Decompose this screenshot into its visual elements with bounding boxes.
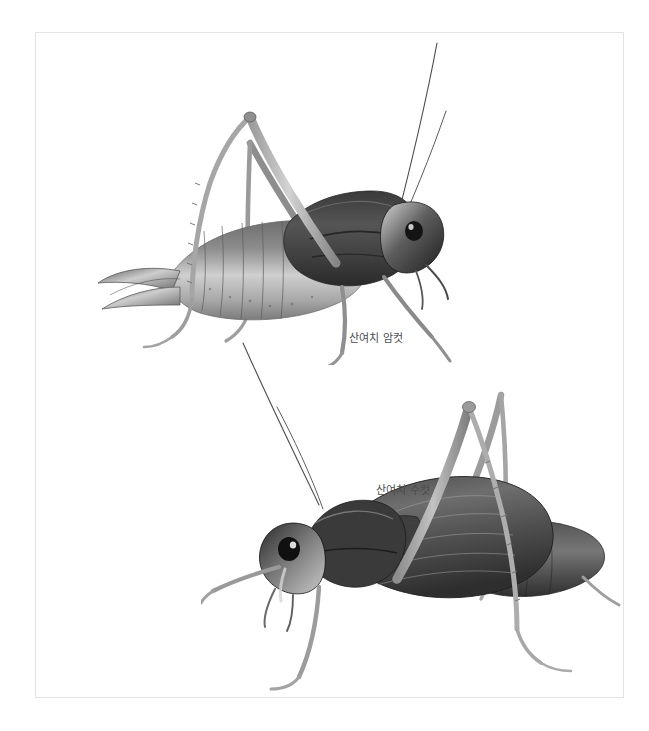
male-antenna-1 (243, 343, 319, 505)
female-hindleg-claw (144, 337, 172, 347)
female-palp-2 (416, 271, 423, 309)
specimen-male (201, 333, 623, 693)
female-katydid-illustration (54, 33, 474, 365)
plate-inner: 산여치 암컷 (36, 33, 623, 697)
male-foreleg-tarsus (201, 591, 213, 603)
male-eye (278, 537, 300, 561)
page-root: 산여치 암컷 (0, 0, 649, 731)
male-hindleg-claw (541, 663, 571, 671)
male-palp-1 (264, 589, 275, 627)
specimen-female (54, 33, 474, 365)
caption-male: 산여치 수컷 (376, 485, 431, 497)
male-hindleg-knee (463, 402, 476, 413)
male-hindleg-tarsus (517, 629, 541, 663)
male-katydid-illustration (201, 333, 623, 693)
female-foreleg-femur (384, 277, 432, 337)
male-palp-2 (287, 595, 293, 631)
female-hindleg-knee (244, 112, 256, 122)
male-eye-highlight (290, 541, 296, 548)
female-eye-highlight (408, 224, 413, 230)
male-midleg-tarsus (271, 677, 299, 689)
male-antenna-2 (277, 407, 323, 509)
female-palp-1 (426, 265, 448, 299)
male-hindleg-far-claw (583, 577, 619, 605)
plate-frame: 산여치 암컷 (35, 32, 624, 698)
female-ovipositor-lower (102, 287, 180, 309)
male-midleg-femur (299, 587, 319, 677)
female-eye (405, 221, 423, 241)
